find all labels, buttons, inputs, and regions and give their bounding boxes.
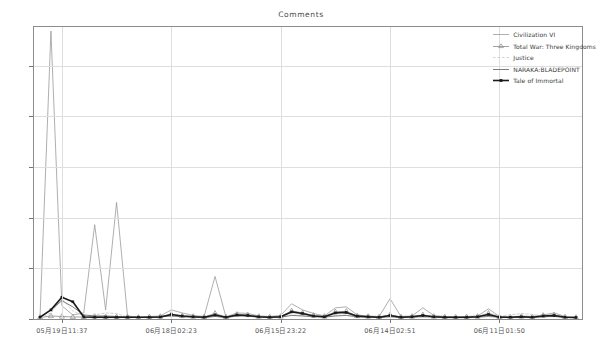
legend-item-naraka-bladepoint[interactable]: NARAKA:BLADEPOINT (492, 65, 596, 74)
data-point-marker (334, 312, 337, 315)
legend-swatch-icon (492, 42, 510, 51)
data-point-marker (433, 315, 436, 318)
data-point-marker (257, 315, 260, 318)
gridline-vertical-3 (390, 27, 391, 319)
data-point-marker (411, 315, 414, 318)
x-axis-tick-label-4: 06月11日01:50 (474, 325, 525, 335)
y-axis-tick-mark-0 (29, 319, 33, 320)
y-axis-tick-mark-1 (29, 268, 33, 269)
data-point-marker (345, 311, 348, 314)
data-point-marker (542, 315, 545, 318)
data-point-marker (290, 311, 293, 314)
legend-label: Justice (513, 54, 533, 61)
x-axis-tick-mark-0 (62, 319, 63, 323)
legend-label: Total War: Three Kingdoms (513, 43, 596, 50)
data-point-marker (192, 315, 195, 318)
legend-item-total-war-three-kingdoms[interactable]: Total War: Three Kingdoms (492, 42, 596, 51)
x-axis-tick-mark-1 (171, 319, 172, 323)
data-point-marker (520, 315, 523, 318)
y-axis-tick-mark-5 (29, 66, 33, 67)
legend-swatch-icon (492, 53, 510, 62)
y-axis-tick-mark-4 (29, 116, 33, 117)
data-point-marker (50, 309, 53, 312)
data-point-marker (236, 314, 239, 317)
data-point-marker (367, 315, 370, 318)
data-point-marker (487, 313, 490, 316)
x-axis-tick-label-2: 06月15日23:22 (255, 325, 306, 335)
legend-label: NARAKA:BLADEPOINT (513, 66, 580, 73)
legend-label: Civilization VI (513, 31, 555, 38)
gridline-vertical-0 (62, 27, 63, 319)
data-point-marker (312, 315, 315, 318)
data-point-marker (476, 315, 479, 318)
chart-title: Comments (0, 10, 602, 19)
data-point-marker (356, 315, 359, 318)
x-axis-tick-mark-4 (499, 319, 500, 323)
x-axis-tick-label-3: 06月14日02:51 (364, 325, 415, 335)
data-point-marker (323, 315, 326, 318)
data-point-marker (301, 312, 304, 315)
data-point-marker (553, 314, 556, 317)
legend-item-civilization-vi[interactable]: Civilization VI (492, 30, 596, 39)
data-point-marker (82, 316, 85, 319)
data-point-marker (422, 314, 425, 317)
data-point-marker (181, 315, 184, 318)
legend-label: Tale of Immortal (513, 77, 563, 84)
gridline-vertical-1 (171, 27, 172, 319)
data-point-marker (214, 314, 217, 317)
legend-swatch-icon (492, 65, 510, 74)
legend-item-tale-of-immortal[interactable]: Tale of Immortal (492, 76, 596, 85)
gridline-vertical-2 (281, 27, 282, 319)
y-axis-tick-mark-3 (29, 167, 33, 168)
data-point-marker (247, 314, 250, 317)
legend-swatch-icon (492, 30, 510, 39)
chart-screenshot: Comments 05001000150020002500 05月19日11:3… (0, 0, 602, 353)
x-axis-tick-label-1: 06月18日02:23 (146, 325, 197, 335)
x-axis-tick-mark-3 (390, 319, 391, 323)
legend-item-justice[interactable]: Justice (492, 53, 596, 62)
data-point-marker (159, 316, 162, 319)
x-axis-tick-mark-2 (281, 319, 282, 323)
chart-legend: Civilization VITotal War: Three Kingdoms… (492, 30, 596, 85)
y-axis-tick-mark-2 (29, 218, 33, 219)
legend-swatch-icon (492, 76, 510, 85)
data-point-marker (72, 300, 75, 303)
x-axis-tick-label-0: 05月19日11:37 (36, 325, 87, 335)
